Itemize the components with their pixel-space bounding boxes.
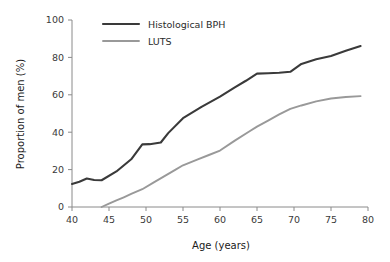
data-series-group <box>72 46 361 207</box>
y-tick-label: 100 <box>46 14 64 25</box>
x-axis: 404550556065707580 <box>66 207 374 225</box>
x-tick-label: 60 <box>214 214 226 225</box>
legend-label-1: Histological BPH <box>148 19 225 30</box>
y-tick-label: 20 <box>52 164 64 175</box>
chart-canvas: 020406080100 404550556065707580 Histolog… <box>0 0 390 262</box>
y-tick-label: 0 <box>58 201 64 212</box>
series-line-luts <box>102 96 361 207</box>
y-tick-label: 60 <box>52 89 64 100</box>
x-tick-label: 65 <box>251 214 263 225</box>
chart-legend: Histological BPHLUTS <box>103 19 225 47</box>
x-tick-label: 45 <box>103 214 115 225</box>
x-tick-label: 50 <box>140 214 152 225</box>
y-tick-label: 40 <box>52 127 64 138</box>
y-tick-label: 80 <box>52 52 64 63</box>
chart-figure: 020406080100 404550556065707580 Histolog… <box>0 0 390 262</box>
y-axis: 020406080100 <box>46 14 72 212</box>
x-tick-group: 404550556065707580 <box>66 207 374 225</box>
y-tick-group: 020406080100 <box>46 14 72 212</box>
x-axis-title: Age (years) <box>192 240 250 251</box>
x-tick-label: 75 <box>325 214 337 225</box>
legend-label-2: LUTS <box>148 36 172 47</box>
x-tick-label: 70 <box>288 214 300 225</box>
x-tick-label: 80 <box>362 214 374 225</box>
x-tick-label: 40 <box>66 214 78 225</box>
x-tick-label: 55 <box>177 214 189 225</box>
series-line-histological-bph <box>72 46 361 184</box>
y-axis-title: Proportion of men (%) <box>15 59 26 169</box>
